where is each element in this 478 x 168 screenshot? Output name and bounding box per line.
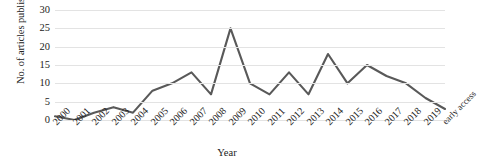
series-polyline xyxy=(55,28,445,120)
x-axis-title-label: Year xyxy=(217,147,236,158)
y-axis-tick-label: 0 xyxy=(28,115,50,126)
gridline xyxy=(55,10,445,11)
x-axis-tick-label: early access xyxy=(441,89,478,126)
y-axis-tick-label: 20 xyxy=(28,42,50,53)
y-axis-tick-label: 25 xyxy=(28,23,50,34)
plot-area xyxy=(55,10,445,120)
x-axis-title: Year xyxy=(0,147,470,158)
y-axis-tick-label: 5 xyxy=(28,97,50,108)
gridline xyxy=(55,83,445,84)
gridline xyxy=(55,28,445,29)
gridline xyxy=(55,65,445,66)
gridline xyxy=(55,102,445,103)
y-axis-tick-label: 15 xyxy=(28,60,50,71)
y-axis-tick-label: 30 xyxy=(28,5,50,16)
y-axis-tick-labels: 051015202530 xyxy=(28,0,50,168)
y-axis-tick-label: 10 xyxy=(28,78,50,89)
gridline xyxy=(55,47,445,48)
x-axis-tick-labels: 2000200120022003200420052006200720082009… xyxy=(55,120,455,168)
y-axis-title: No. of articles published xyxy=(15,0,26,91)
